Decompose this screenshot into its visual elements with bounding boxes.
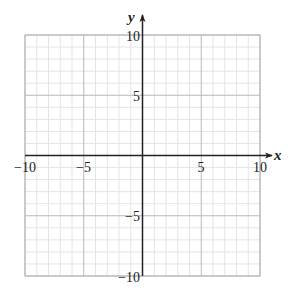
x-tick-label-neg5: −5 [76, 160, 91, 175]
y-tick-label-5: 5 [133, 89, 140, 104]
x-tick-label-neg10: −10 [14, 160, 36, 175]
y-tick-label-neg10: −10 [118, 270, 140, 285]
coordinate-plane: x y −10 −5 5 10 10 5 −5 −10 [0, 0, 293, 294]
x-axis-label: x [273, 147, 282, 163]
x-tick-label-10: 10 [253, 160, 267, 175]
y-tick-label-10: 10 [126, 29, 140, 44]
y-tick-label-neg5: −5 [125, 209, 140, 224]
y-axis-label: y [126, 9, 135, 25]
x-tick-label-5: 5 [198, 160, 205, 175]
